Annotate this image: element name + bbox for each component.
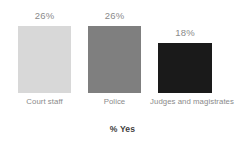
bar-rect-police[interactable] xyxy=(88,26,141,93)
bar-rect-court-staff[interactable] xyxy=(18,26,71,93)
bar-rect-judges-and-magistrates[interactable] xyxy=(158,43,212,93)
axis-title: % Yes xyxy=(0,124,245,134)
bar-group-police: 26% xyxy=(88,0,141,93)
plot-area: 26% 26% 18% xyxy=(0,0,245,93)
bar-value-label: 18% xyxy=(175,27,195,38)
bar-group-court-staff: 26% xyxy=(18,0,71,93)
bar-column: 18% xyxy=(158,27,212,93)
bar-chart: 26% 26% 18% Court staff Police Judges an… xyxy=(0,0,245,151)
category-axis: Court staff Police Judges and magistrate… xyxy=(0,96,245,110)
bar-value-label: 26% xyxy=(105,10,125,21)
category-label-judges-and-magistrates: Judges and magistrates xyxy=(142,96,242,108)
bar-column: 26% xyxy=(88,10,141,93)
bar-column: 26% xyxy=(18,10,71,93)
bar-group-judges-and-magistrates: 18% xyxy=(158,0,212,93)
category-label-court-staff: Court staff xyxy=(8,96,81,108)
bar-value-label: 26% xyxy=(35,10,55,21)
category-label-police: Police xyxy=(88,96,141,108)
